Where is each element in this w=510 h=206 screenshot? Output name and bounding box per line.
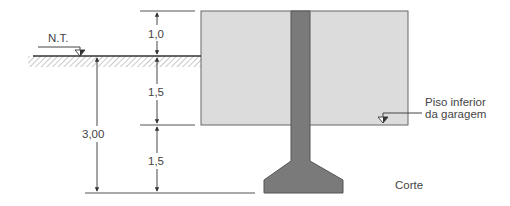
- floor-label-line1: Piso inferior: [425, 96, 486, 108]
- foundation-diagram: N.T. 1,0 1,5 1,5 3,00 Piso inferior da g…: [0, 0, 510, 206]
- section-label: Corte: [395, 179, 423, 191]
- dim-middle-label: 1,5: [148, 86, 164, 98]
- ground-hatch: [28, 56, 201, 67]
- nt-label: N.T.: [48, 32, 68, 44]
- dim-bottom-label: 1,5: [148, 155, 164, 167]
- dim-top-label: 1,0: [148, 28, 164, 40]
- floor-label-line2: da garagem: [425, 108, 486, 120]
- dim-total-label: 3,00: [82, 128, 104, 140]
